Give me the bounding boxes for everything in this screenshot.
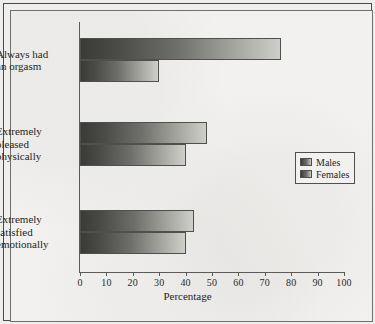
- x-tick-label-50: 50: [207, 277, 217, 288]
- plot-area: 0102030405060708090100: [80, 22, 344, 272]
- legend-swatch-females: [300, 170, 312, 178]
- x-tick-10: [106, 272, 107, 276]
- category-label-line: pleased: [0, 138, 72, 151]
- chart-legend: Males Females: [295, 152, 355, 184]
- x-tick-60: [238, 272, 239, 276]
- legend-item-females: Females: [300, 168, 349, 180]
- category-label-extremely-pleased-physically: Extremelypleasedphysically: [0, 125, 72, 163]
- x-tick-label-100: 100: [336, 277, 352, 288]
- category-label-line: physically: [0, 150, 72, 163]
- x-tick-40: [186, 272, 187, 276]
- legend-label-females: Females: [316, 169, 349, 180]
- x-tick-label-60: 60: [233, 277, 243, 288]
- legend-item-males: Males: [300, 156, 349, 168]
- category-label-line: Always had: [0, 48, 72, 61]
- legend-label-males: Males: [316, 157, 340, 168]
- figure-container: Always hadan orgasm Extremelypleasedphys…: [0, 0, 375, 324]
- x-tick-50: [212, 272, 213, 276]
- bar-females-always-had-an-orgasm: [80, 60, 159, 82]
- x-tick-90: [318, 272, 319, 276]
- x-tick-80: [291, 272, 292, 276]
- bar-males-always-had-an-orgasm: [80, 38, 281, 60]
- x-tick-label-30: 30: [154, 277, 164, 288]
- category-label-line: satisfied: [0, 226, 72, 239]
- legend-swatch-males: [300, 158, 312, 166]
- category-label-line: emotionally: [0, 238, 72, 251]
- x-tick-label-70: 70: [260, 277, 270, 288]
- x-tick-label-90: 90: [312, 277, 322, 288]
- x-tick-0: [80, 272, 81, 276]
- x-tick-label-80: 80: [286, 277, 296, 288]
- x-tick-30: [159, 272, 160, 276]
- category-label-line: an orgasm: [0, 60, 72, 73]
- category-label-extremely-satisfied-emotionally: Extremelysatisfiedemotionally: [0, 213, 72, 251]
- bar-females-extremely-pleased-physically: [80, 144, 186, 166]
- x-tick-100: [344, 272, 345, 276]
- x-tick-label-10: 10: [101, 277, 111, 288]
- bar-males-extremely-pleased-physically: [80, 122, 207, 144]
- category-label-always-had-an-orgasm: Always hadan orgasm: [0, 48, 72, 73]
- x-tick-label-20: 20: [128, 277, 138, 288]
- category-label-line: Extremely: [0, 125, 72, 138]
- x-tick-label-40: 40: [180, 277, 190, 288]
- x-tick-20: [133, 272, 134, 276]
- bar-males-extremely-satisfied-emotionally: [80, 210, 194, 232]
- category-label-line: Extremely: [0, 213, 72, 226]
- x-tick-70: [265, 272, 266, 276]
- x-tick-label-0: 0: [77, 277, 82, 288]
- x-axis-title: Percentage: [0, 290, 375, 302]
- bar-females-extremely-satisfied-emotionally: [80, 232, 186, 254]
